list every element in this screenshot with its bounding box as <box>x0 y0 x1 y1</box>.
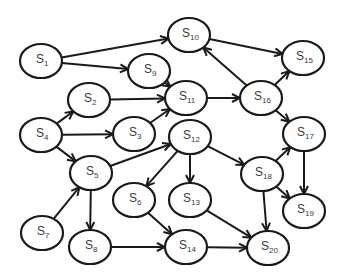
node-s6: S6 <box>113 183 155 217</box>
edge-s1-to-s9 <box>62 63 128 69</box>
node-s3: S3 <box>113 117 155 151</box>
edge-s16-to-s15 <box>275 71 290 85</box>
edge-s3-to-s11 <box>150 109 170 123</box>
node-s12: S12 <box>169 120 211 154</box>
node-s19: S19 <box>283 194 325 228</box>
edge-s10-to-s15 <box>209 39 282 54</box>
edge-s6-to-s14 <box>148 213 172 235</box>
edge-s2-to-s11 <box>110 98 165 99</box>
edge-s5-to-s8 <box>90 190 91 230</box>
edge-s16-to-s17 <box>276 110 290 122</box>
node-s13: S13 <box>169 183 211 217</box>
node-s1: S1 <box>20 44 62 78</box>
node-s18: S18 <box>241 157 283 191</box>
node-s2: S2 <box>68 83 110 117</box>
edge-s4-to-s3 <box>62 134 113 135</box>
state-graph-diagram: S1S2S3S4S5S6S7S8S9S10S11S12S13S14S15S16S… <box>0 0 343 279</box>
node-s20: S20 <box>247 231 289 265</box>
node-s11: S11 <box>165 81 207 115</box>
node-s17: S17 <box>283 117 325 151</box>
edge-s4-to-s2 <box>57 111 74 123</box>
edge-s12-to-s18 <box>208 146 245 165</box>
nodes-layer: S1S2S3S4S5S6S7S8S9S10S11S12S13S14S15S16S… <box>20 18 325 265</box>
edge-s4-to-s5 <box>56 147 75 162</box>
node-s14: S14 <box>165 230 207 264</box>
edge-s18-to-s19 <box>276 187 290 199</box>
node-s5: S5 <box>70 156 112 190</box>
edge-s7-to-s5 <box>54 187 80 219</box>
edge-s18-to-s17 <box>276 147 291 161</box>
node-s9: S9 <box>128 54 170 88</box>
edge-s18-to-s20 <box>263 191 266 231</box>
node-s15: S15 <box>282 41 324 75</box>
node-s10: S10 <box>168 18 210 52</box>
edge-s13-to-s20 <box>207 210 252 237</box>
node-s4: S4 <box>20 118 62 152</box>
node-s16: S16 <box>240 81 282 115</box>
node-s8: S8 <box>69 230 111 264</box>
edge-s12-to-s6 <box>146 151 177 186</box>
node-s7: S7 <box>21 216 63 250</box>
edge-s16-to-s10 <box>203 48 246 86</box>
